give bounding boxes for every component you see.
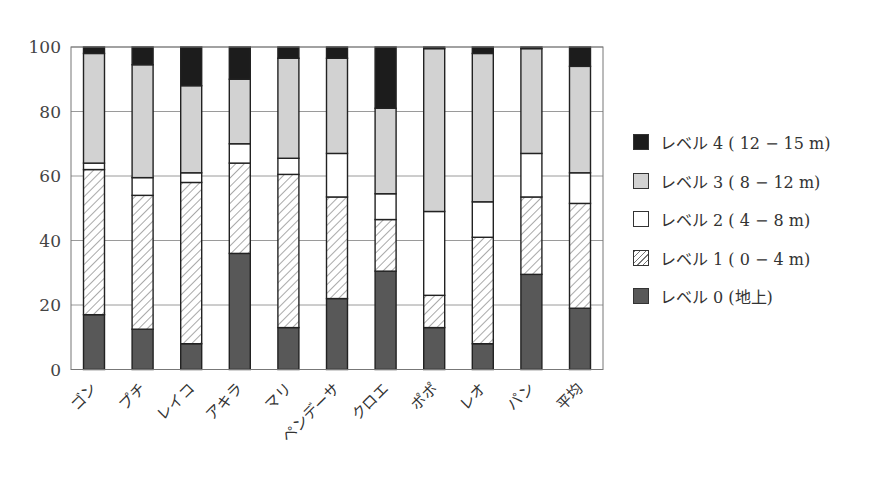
bar-5 xyxy=(278,47,299,370)
y-tick-label: 20 xyxy=(39,295,61,315)
legend-item-level-4: レベル 4 ( 12 − 15 m) xyxy=(633,123,830,162)
bar-segment-l0 xyxy=(375,271,396,369)
bar-4 xyxy=(229,47,250,370)
bar-7 xyxy=(375,47,396,370)
x-axis-category-labels: ゴンプチレイコアキラマリペンデーサクロエポポレオパン平均 xyxy=(67,380,587,446)
legend-swatch-level-4 xyxy=(633,134,649,150)
bar-segment-l0 xyxy=(570,308,591,369)
bar-segment-l2 xyxy=(570,173,591,204)
y-tick-label: 80 xyxy=(39,102,61,122)
bar-2 xyxy=(132,47,153,370)
bar-8 xyxy=(424,47,445,370)
bar-segment-l2 xyxy=(181,173,202,183)
bar-segment-l4 xyxy=(132,47,153,65)
bar-segment-l3 xyxy=(229,79,250,144)
x-category-label: パン xyxy=(504,380,539,415)
x-category-label: プチ xyxy=(115,380,149,414)
x-category-label: レオ xyxy=(456,380,490,414)
x-category-label: 平均 xyxy=(553,380,587,414)
bar-segment-l3 xyxy=(570,66,591,172)
bar-segment-l0 xyxy=(424,328,445,370)
bar-segment-l2 xyxy=(472,202,493,237)
bar-segment-l0 xyxy=(84,315,105,370)
bar-segment-l1 xyxy=(132,195,153,329)
bar-segment-l3 xyxy=(424,49,445,212)
bar-segment-l4 xyxy=(375,47,396,108)
bar-segment-l2 xyxy=(278,158,299,174)
bar-segment-l4 xyxy=(181,47,202,86)
legend-swatch-level-0 xyxy=(633,288,649,304)
legend-label-level-0: レベル 0 (地上) xyxy=(660,284,773,308)
bar-segment-l1 xyxy=(521,197,542,274)
bar-segment-l3 xyxy=(278,58,299,158)
x-category-label: クロエ xyxy=(348,380,393,425)
legend-item-level-3: レベル 3 ( 8 − 12 m) xyxy=(633,162,830,201)
bar-segment-l0 xyxy=(278,328,299,370)
x-category-label: マリ xyxy=(261,380,295,414)
x-category-label: ゴン xyxy=(67,380,101,414)
bar-segment-l4 xyxy=(472,47,493,53)
bar-segment-l2 xyxy=(229,144,250,163)
bar-3 xyxy=(181,47,202,370)
bar-segment-l1 xyxy=(327,197,348,299)
x-category-label: ポポ xyxy=(407,380,441,414)
bar-segment-l1 xyxy=(424,295,445,327)
bar-segment-l3 xyxy=(327,58,348,153)
y-tick-label: 40 xyxy=(39,231,61,251)
bar-segment-l1 xyxy=(375,220,396,272)
legend-swatch-level-3 xyxy=(633,173,649,189)
bar-segment-l1 xyxy=(229,163,250,253)
bar-segment-l0 xyxy=(181,344,202,370)
bar-segment-l2 xyxy=(84,163,105,169)
bar-segment-l4 xyxy=(278,47,299,58)
legend-swatch-level-1 xyxy=(633,250,649,266)
legend-label-level-2: レベル 2 ( 4 − 8 m) xyxy=(660,207,810,231)
bar-segment-l2 xyxy=(327,153,348,197)
bar-segment-l3 xyxy=(84,53,105,163)
bar-segment-l1 xyxy=(570,203,591,308)
bar-segment-l0 xyxy=(132,329,153,369)
bar-segment-l2 xyxy=(424,211,445,295)
bar-segment-l1 xyxy=(181,182,202,343)
y-tick-label: 0 xyxy=(50,360,61,380)
bar-segment-l4 xyxy=(84,47,105,53)
legend: レベル 4 ( 12 − 15 m) レベル 3 ( 8 − 12 m) レベル… xyxy=(633,123,830,316)
bar-6 xyxy=(327,47,348,370)
bar-segment-l1 xyxy=(472,237,493,343)
legend-label-level-3: レベル 3 ( 8 − 12 m) xyxy=(660,169,820,193)
bar-segment-l0 xyxy=(327,299,348,370)
bar-segment-l3 xyxy=(472,53,493,201)
bar-segment-l2 xyxy=(521,153,542,197)
legend-label-level-1: レベル 1 ( 0 − 4 m) xyxy=(660,246,810,270)
bar-1 xyxy=(84,47,105,370)
bar-segment-l3 xyxy=(132,65,153,178)
bar-9 xyxy=(472,47,493,370)
bar-segment-l3 xyxy=(521,49,542,154)
legend-item-level-1: レベル 1 ( 0 − 4 m) xyxy=(633,239,830,278)
x-category-label: アキラ xyxy=(202,380,247,425)
bar-segment-l3 xyxy=(181,86,202,173)
y-tick-label: 100 xyxy=(29,37,61,57)
legend-label-level-4: レベル 4 ( 12 − 15 m) xyxy=(660,130,830,154)
bar-segment-l4 xyxy=(229,47,250,79)
bar-segment-l4 xyxy=(570,47,591,66)
legend-item-level-2: レベル 2 ( 4 − 8 m) xyxy=(633,200,830,239)
bar-segment-l0 xyxy=(472,344,493,370)
bar-segment-l3 xyxy=(375,108,396,193)
bar-segment-l2 xyxy=(132,178,153,196)
bar-segment-l4 xyxy=(327,47,348,58)
bar-segment-l2 xyxy=(375,194,396,220)
bar-11 xyxy=(570,47,591,370)
bar-segment-l1 xyxy=(84,170,105,315)
bar-10 xyxy=(521,47,542,370)
bar-segment-l1 xyxy=(278,174,299,327)
bar-segment-l0 xyxy=(521,274,542,369)
y-axis-tick-labels: 020406080100 xyxy=(29,37,61,380)
legend-item-level-0: レベル 0 (地上) xyxy=(633,277,830,316)
x-category-label: レイコ xyxy=(153,380,198,425)
legend-swatch-level-2 xyxy=(633,211,649,227)
y-tick-label: 60 xyxy=(39,166,61,186)
bar-segment-l0 xyxy=(229,253,250,369)
bars xyxy=(84,47,591,370)
